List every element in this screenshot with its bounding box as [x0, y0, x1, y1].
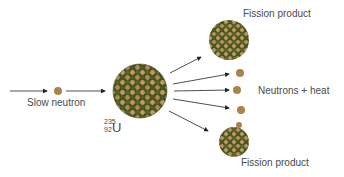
- product-arrows: [169, 57, 229, 131]
- uranium-nucleus: [113, 64, 167, 118]
- fission-product-bottom-nucleus: [219, 127, 249, 157]
- released-neutron-2: [233, 86, 241, 94]
- fission-product-top-label: Fission product: [243, 8, 311, 19]
- atomic-number: 92: [104, 126, 112, 133]
- slow-neutron-particle: [54, 87, 62, 95]
- fission-product-bottom-label: Fission product: [241, 157, 309, 168]
- element-symbol: U: [112, 120, 121, 135]
- released-neutron-1: [236, 69, 244, 77]
- slow-neutron-label: Slow neutron: [27, 97, 85, 108]
- neutrons-heat-label: Neutrons + heat: [258, 85, 329, 96]
- fission-product-top-nucleus: [209, 20, 249, 60]
- released-neutron-4: [236, 122, 242, 128]
- released-neutron-3: [237, 106, 245, 114]
